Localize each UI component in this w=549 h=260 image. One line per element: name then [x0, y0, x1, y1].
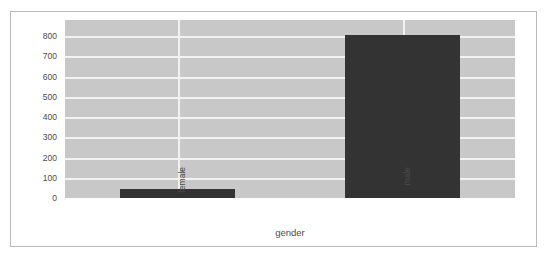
- y-tick-label: 200: [0, 153, 61, 162]
- y-tick-label: 300: [0, 133, 61, 142]
- x-axis-title: gender: [65, 228, 515, 238]
- y-tick-label: 400: [0, 113, 61, 122]
- y-tick-label: 0: [0, 194, 61, 203]
- plot-area: [65, 20, 515, 198]
- y-axis: 800 700 600 500 400 300 200 100 0: [0, 20, 61, 198]
- y-tick-label: 500: [0, 93, 61, 102]
- y-tick-label: 800: [0, 32, 61, 41]
- y-tick-label: 600: [0, 72, 61, 81]
- x-tick-label: male: [403, 167, 412, 201]
- y-tick-label: 100: [0, 174, 61, 183]
- chart-figure: 800 700 600 500 400 300 200 100 0 female…: [0, 0, 549, 260]
- x-tick-label: female: [178, 167, 187, 201]
- y-tick-label: 700: [0, 52, 61, 61]
